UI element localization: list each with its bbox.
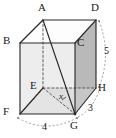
dimension-label-edge-dh: 5 — [104, 46, 109, 56]
vertex-label-C: C — [77, 37, 84, 48]
vertex-dot-G — [74, 113, 77, 116]
dimension-label-edge-fg: 4 — [42, 122, 47, 132]
vertex-label-E: E — [30, 80, 37, 91]
arc-endpoint-f — [17, 117, 19, 119]
vertex-label-D: D — [91, 2, 99, 13]
vertex-label-H: H — [98, 82, 106, 93]
rectangular-prism-drawing — [0, 0, 116, 138]
dimension-label-diagonal-x: x — [59, 91, 63, 101]
vertex-label-F: F — [3, 106, 9, 117]
vertex-label-B: B — [3, 35, 10, 46]
arc-endpoint-d — [98, 20, 100, 22]
vertex-label-A: A — [38, 2, 46, 13]
geometry-figure: A B C D E F G H 5 3 4 x — [0, 0, 116, 138]
vertex-label-G: G — [70, 120, 78, 131]
measure-arc-FG — [18, 118, 77, 126]
dimension-label-edge-gh: 3 — [88, 103, 93, 113]
